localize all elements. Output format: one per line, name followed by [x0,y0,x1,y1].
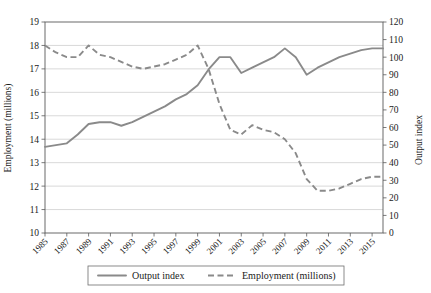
x-axis-tick-label: 1987 [52,236,72,256]
plot-frame [45,22,383,233]
y-axis-left-title: Employment (millions) [3,84,14,173]
y-axis-left-tick-label: 17 [30,64,40,74]
grid-lines [45,45,383,209]
y-axis-left-tick-label: 15 [30,111,40,121]
y-axis-right-tick-label: 20 [389,193,399,203]
y-axis-left-tick-label: 18 [30,41,40,51]
y-axis-left-tick-label: 13 [30,158,40,168]
y-axis-left-tick-label: 10 [30,228,40,238]
y-axis-right-tick-label: 80 [389,88,399,98]
y-axis-right-tick-label: 70 [389,105,399,115]
legend-label: Output index [132,270,185,281]
series-line-solid [45,48,383,146]
series-line-dashed [45,45,383,190]
x-axis-tick-label: 2013 [335,236,355,256]
x-axis-tick-label: 1997 [161,236,181,256]
x-axis-tick-label: 2015 [357,236,377,256]
y-axis-left-ticks [42,22,46,233]
y-axis-right-tick-label: 110 [389,35,403,45]
y-axis-right-ticks [383,22,387,233]
x-axis-tick-label: 1991 [96,236,116,256]
y-axis-left-tick-label: 11 [30,205,39,215]
y-axis-right-tick-label: 90 [389,70,399,80]
x-axis-tick-label: 1985 [30,236,50,256]
y-axis-right-tick-label: 30 [389,176,399,186]
x-axis-tick-label: 2011 [314,236,334,256]
y-axis-right-title: Output index [414,115,424,165]
x-axis-tick-label: 2005 [248,236,268,256]
y-axis-right-tick-label: 50 [389,140,399,150]
x-axis-tick-label: 1993 [117,236,137,256]
y-axis-right-tick-label: 120 [389,17,404,27]
y-axis-right-tick-label: 60 [389,123,399,133]
y-axis-left-tick-labels: 19181716151413121110 [30,17,40,238]
chart-figure: 19181716151413121110 1201101009080706050… [0,0,431,293]
y-axis-right-tick-label: 100 [389,53,404,63]
y-axis-right-tick-labels: 1201101009080706050403020100 [389,17,404,238]
y-axis-right-tick-label: 10 [389,211,399,221]
x-axis-tick-labels: 1985198719891991199319951997199920012003… [30,236,377,256]
x-axis-tick-label: 2007 [270,236,290,256]
line-chart: 19181716151413121110 1201101009080706050… [0,0,431,293]
x-axis-tick-label: 1995 [139,236,159,256]
x-axis-tick-label: 1989 [74,236,94,256]
y-axis-right-tick-label: 40 [389,158,399,168]
chart-legend: Output indexEmployment (millions) [88,266,344,285]
data-series [45,45,383,190]
y-axis-left-tick-label: 14 [30,135,40,145]
x-axis-tick-label: 2009 [292,236,312,256]
y-axis-right-tick-label: 0 [389,228,394,238]
y-axis-left-tick-label: 12 [30,182,40,192]
y-axis-left-tick-label: 16 [30,88,40,98]
x-axis-tick-label: 1999 [183,236,203,256]
x-axis-ticks [45,233,372,237]
x-axis-tick-label: 2003 [226,236,246,256]
x-axis-tick-label: 2001 [205,236,225,256]
y-axis-left-tick-label: 19 [30,17,40,27]
legend-label: Employment (millions) [242,270,336,282]
